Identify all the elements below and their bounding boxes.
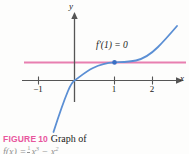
y-axis-arrow [71,12,77,19]
derivative-annotation: f′(1) = 0 [96,41,128,51]
y-axis-label: y [69,2,73,11]
graph-svg [0,0,189,133]
formula-term2-exponent: 2 [55,145,58,152]
figure-caption-number: 10 [38,134,47,144]
x-axis-label: x [180,74,184,83]
figure-container: y x −1 1 2 f′(1) = 0 FIGURE10Graph of f(… [0,0,189,154]
plot-area: y x −1 1 2 f′(1) = 0 [0,0,189,133]
formula-fraction-numerator: 1 [27,145,30,152]
figure-caption-text: Graph of [51,133,87,144]
formula-fraction-denominator: 3 [27,152,30,155]
figure-caption-label: FIGURE [3,134,36,144]
x-tick-label-2: 2 [146,85,158,94]
formula-minus: − [42,146,49,154]
formula-fraction: 13 [27,145,30,154]
figure-caption-line: FIGURE10Graph of [3,134,189,145]
figure-caption: FIGURE10Graph of f(x) =13x3 − x2 [3,134,189,145]
formula-term1-exponent: 3 [36,145,39,152]
x-tick-label-1: 1 [108,85,120,94]
critical-point-marker [112,60,117,65]
formula-prefix: f(x) = [3,146,26,154]
x-tick-label-neg1: −1 [31,85,45,94]
figure-caption-formula: f(x) =13x3 − x2 [3,145,189,154]
